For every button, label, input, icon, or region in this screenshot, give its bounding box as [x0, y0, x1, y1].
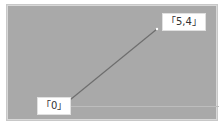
end-point-marker[interactable] [156, 28, 158, 30]
start-point-label: 「0」 [37, 97, 71, 115]
end-point-label: 「5,4」 [162, 13, 206, 31]
connector-line [65, 29, 157, 104]
